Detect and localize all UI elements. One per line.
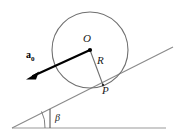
center-point-dot xyxy=(88,48,92,52)
acceleration-vector-arrowhead xyxy=(26,72,39,80)
physics-diagram-figure: O R P β a0 xyxy=(0,0,178,135)
label-radius-R: R xyxy=(97,55,104,66)
label-contact-point-P: P xyxy=(102,85,109,96)
diagram-canvas xyxy=(0,0,178,135)
label-center-O: O xyxy=(83,33,91,44)
angle-arc-beta xyxy=(42,111,46,128)
label-incline-angle-beta: β xyxy=(55,113,60,123)
acceleration-vector-line xyxy=(33,50,90,76)
label-acceleration-subscript: 0 xyxy=(31,55,35,63)
label-acceleration-vector-a0: a0 xyxy=(26,50,35,63)
